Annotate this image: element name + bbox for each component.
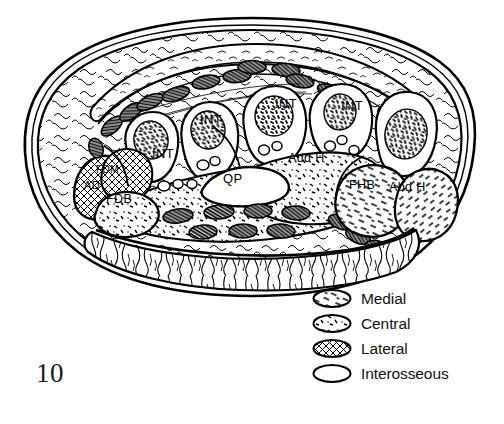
legend-item-interosseous: Interosseous	[312, 361, 497, 386]
legend-swatch-lateral	[312, 339, 352, 358]
figure-root: INT INT INT INT AD FDM FDB QP Add H FHB …	[0, 0, 504, 424]
legend-label-lateral: Lateral	[361, 340, 408, 358]
legend-label-interosseous: Interosseous	[361, 365, 449, 383]
legend: Medial Central Lateral Interosseous	[312, 286, 497, 386]
legend-item-central: Central	[312, 311, 497, 336]
legend-swatch-interosseous	[312, 364, 352, 383]
flexor-digitorum-brevis	[94, 192, 158, 237]
legend-label-medial: Medial	[361, 290, 406, 308]
legend-item-medial: Medial	[312, 286, 497, 311]
abductor-hallucis	[395, 169, 458, 241]
legend-swatch-medial	[312, 289, 352, 308]
legend-swatch-central	[312, 314, 352, 333]
figure-number: 10	[36, 358, 64, 389]
legend-label-central: Central	[361, 315, 410, 333]
legend-item-lateral: Lateral	[312, 336, 497, 361]
